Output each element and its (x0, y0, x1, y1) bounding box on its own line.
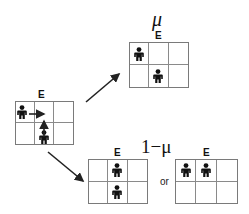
transition-arrow-one-minus-mu (48, 152, 83, 181)
transition-arrows (0, 0, 249, 214)
transition-arrow-mu (86, 74, 119, 102)
